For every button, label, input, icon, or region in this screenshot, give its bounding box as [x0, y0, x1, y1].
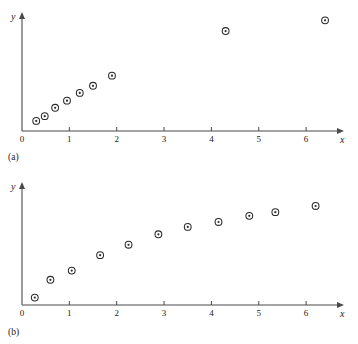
- x-tick-label: 5: [257, 308, 262, 318]
- two-panel-scatter-figure: 0123456yx (a) 0123456yx (b): [0, 0, 358, 344]
- marker-center-dot: [79, 92, 81, 94]
- data-point: [184, 223, 191, 230]
- y-axis-title: y: [10, 11, 16, 22]
- data-point: [97, 252, 104, 259]
- data-point: [272, 209, 279, 216]
- x-tick-label: 1: [67, 308, 72, 318]
- data-point: [322, 17, 329, 24]
- data-point: [312, 203, 319, 210]
- marker-center-dot: [274, 211, 276, 213]
- x-tick-label: 0: [20, 308, 25, 318]
- data-point: [47, 276, 54, 283]
- x-axis-title: x: [339, 308, 345, 319]
- marker-center-dot: [92, 85, 94, 87]
- x-tick-label: 1: [67, 134, 72, 144]
- panel-a-canvas: 0123456yx: [0, 0, 358, 172]
- marker-center-dot: [49, 279, 51, 281]
- panel-b-canvas: 0123456yx: [0, 160, 358, 344]
- marker-center-dot: [44, 115, 46, 117]
- data-point: [155, 231, 162, 238]
- marker-center-dot: [127, 244, 129, 246]
- data-point: [222, 28, 229, 35]
- data-point: [90, 82, 97, 89]
- marker-center-dot: [111, 75, 113, 77]
- marker-center-dot: [225, 30, 227, 32]
- x-tick-label: 5: [257, 134, 262, 144]
- x-tick-label: 4: [209, 134, 214, 144]
- marker-center-dot: [66, 100, 68, 102]
- x-tick-label: 4: [209, 308, 214, 318]
- marker-center-dot: [34, 297, 36, 299]
- data-point: [246, 212, 253, 219]
- x-tick-label: 6: [304, 308, 309, 318]
- data-point: [64, 97, 71, 104]
- data-point: [33, 117, 40, 124]
- marker-center-dot: [248, 215, 250, 217]
- marker-center-dot: [54, 107, 56, 109]
- data-point: [125, 241, 132, 248]
- data-point: [52, 104, 59, 111]
- x-tick-label: 3: [162, 308, 167, 318]
- marker-center-dot: [157, 233, 159, 235]
- panel-b-label: (b): [8, 327, 19, 337]
- x-tick-label: 6: [304, 134, 309, 144]
- marker-center-dot: [314, 205, 316, 207]
- marker-center-dot: [217, 221, 219, 223]
- data-point: [109, 72, 116, 79]
- y-axis-arrow: [19, 12, 25, 19]
- data-point: [31, 294, 38, 301]
- marker-center-dot: [71, 269, 73, 271]
- panel-a-scatter-plot: 0123456yx: [0, 0, 358, 172]
- data-point: [215, 219, 222, 226]
- marker-center-dot: [99, 254, 101, 256]
- marker-center-dot: [187, 226, 189, 228]
- x-tick-label: 2: [114, 308, 119, 318]
- marker-center-dot: [324, 19, 326, 21]
- y-axis-arrow: [19, 182, 25, 189]
- data-point: [41, 113, 48, 120]
- data-point: [76, 90, 83, 97]
- x-tick-label: 0: [20, 134, 25, 144]
- marker-center-dot: [35, 120, 37, 122]
- y-axis-title: y: [10, 181, 16, 192]
- data-point: [68, 267, 75, 274]
- x-axis-title: x: [339, 134, 345, 145]
- x-tick-label: 3: [162, 134, 167, 144]
- panel-b-scatter-plot: 0123456yx: [0, 160, 358, 344]
- x-tick-label: 2: [114, 134, 119, 144]
